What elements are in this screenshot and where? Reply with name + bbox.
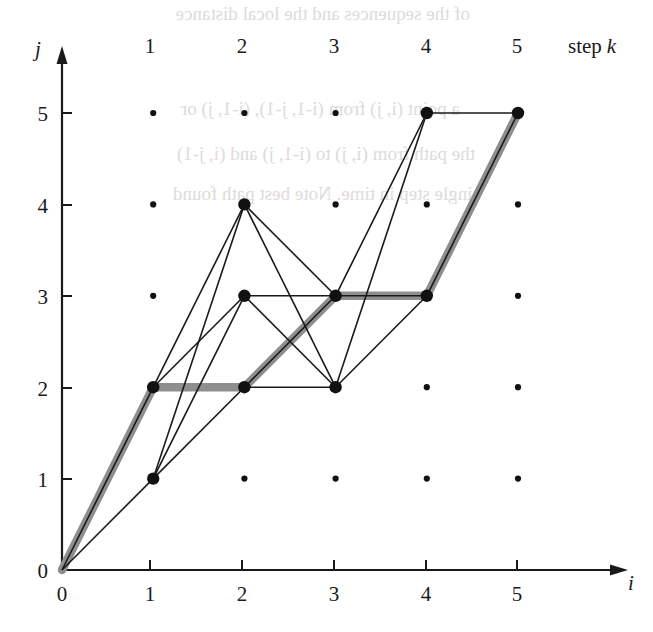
transition-edge: [153, 204, 244, 387]
lattice-dot: [241, 476, 247, 482]
y-tick-label-1: 1: [38, 468, 49, 492]
lattice-dot: [424, 384, 430, 390]
lattice-dot: [150, 293, 156, 299]
transition-edge: [153, 296, 244, 387]
x-axis-arrowhead: [610, 565, 628, 576]
step-label-2: 2: [237, 34, 248, 58]
y-tick-label-0: 0: [38, 559, 49, 583]
transition-edge: [427, 113, 518, 296]
active-node: [147, 472, 159, 484]
bleed-line-4: single step in time. Note best path foun…: [172, 183, 480, 204]
top-step-axis: 1 2 3 4 5 stepk: [145, 34, 617, 58]
x-tick-label-2: 2: [237, 582, 248, 606]
active-node: [512, 107, 524, 119]
axis-lines: [57, 46, 629, 576]
x-axis-name: i: [628, 571, 634, 595]
step-label-3: 3: [329, 34, 340, 58]
transition-edge: [62, 387, 153, 570]
transition-edge: [336, 296, 427, 387]
lattice-dot: [424, 476, 430, 482]
x-tick-label-0: 0: [57, 582, 68, 606]
active-node: [329, 290, 341, 302]
lattice-dot: [241, 110, 247, 116]
active-node: [421, 107, 433, 119]
step-k-caption: stepk: [568, 34, 617, 58]
y-tick-label-2: 2: [38, 377, 49, 401]
bleed-line-1: of the sequences and the local distance: [176, 3, 470, 24]
x-tick-label-3: 3: [329, 582, 340, 606]
x-tick-label-4: 4: [421, 582, 432, 606]
bleed-line-3: the path from (i, j) to (i-1, j) and (i,…: [177, 143, 475, 165]
lattice-dot: [333, 201, 339, 207]
page-bleed-through: of the sequences and the local distance …: [172, 3, 480, 204]
lattice-dot: [515, 201, 521, 207]
step-label-5: 5: [512, 34, 523, 58]
step-label-1: 1: [145, 34, 156, 58]
step-caption-word: step: [568, 34, 602, 58]
active-node: [421, 290, 433, 302]
y-tick-label-5: 5: [38, 102, 49, 126]
transition-edge: [244, 204, 335, 295]
y-tick-label-3: 3: [38, 285, 49, 309]
x-tick-label-5: 5: [512, 582, 523, 606]
lattice-dot: [333, 476, 339, 482]
lattice-dot: [515, 293, 521, 299]
y-axis-arrowhead: [57, 46, 68, 64]
lattice-dot: [150, 201, 156, 207]
lattice-dot: [515, 384, 521, 390]
x-tick-label-1: 1: [145, 582, 156, 606]
lattice-dot: [333, 110, 339, 116]
lattice-dot: [424, 201, 430, 207]
y-tick-label-4: 4: [38, 194, 49, 218]
transition-edge: [336, 113, 427, 296]
active-node: [238, 290, 250, 302]
x-axis-ticks: 0 1 2 3 4 5: [57, 560, 523, 606]
transition-edges: [62, 113, 518, 570]
y-axis-ticks: 5 4 3 2 1 0: [38, 102, 73, 583]
transition-edge: [62, 479, 153, 570]
active-node: [238, 381, 250, 393]
active-node: [147, 381, 159, 393]
bleed-line-2: a point (i, j) from (i-1, j-1), (i-1, j)…: [180, 98, 460, 120]
lattice-dot: [150, 110, 156, 116]
active-node: [238, 198, 250, 210]
y-axis-name: j: [32, 37, 41, 61]
lattice-dot: [515, 476, 521, 482]
step-caption-var: k: [607, 34, 617, 58]
transition-edge: [153, 387, 244, 478]
active-node: [329, 381, 341, 393]
dtw-lattice-figure: of the sequences and the local distance …: [0, 0, 653, 632]
step-label-4: 4: [421, 34, 432, 58]
